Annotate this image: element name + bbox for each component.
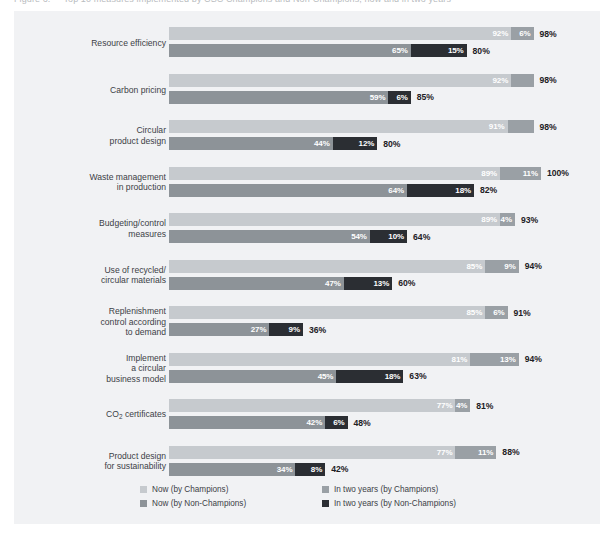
bar-total-label: 98% [534, 27, 557, 40]
segment-two-years-value: 6% [493, 308, 504, 317]
segment-two-years-value: 18% [385, 372, 401, 381]
segment-two-years: 12% [333, 137, 378, 150]
category-label: Circular product design [0, 126, 166, 147]
segment-two-years: 11% [455, 446, 496, 459]
segment-now-value: 54% [351, 232, 367, 241]
bar-total-label: 91% [508, 306, 531, 319]
segment-now: 45% [169, 370, 336, 383]
stacked-bar-champions: 81%13% [169, 353, 519, 366]
category-label: Resource efficiency [0, 38, 166, 49]
segment-two-years-value: 15% [448, 46, 464, 55]
legend-item-nonchampions-two-years: In two years (by Non-Champions) [322, 499, 474, 508]
bar-total-label: 100% [541, 167, 569, 180]
segment-now: 91% [169, 120, 508, 133]
bar-total-label: 94% [519, 260, 542, 273]
stacked-bar-non-champions: 34%8% [169, 463, 325, 476]
bar-row: Carbon pricing92%98%59%6%85% [14, 67, 600, 114]
segment-now: 92% [169, 74, 511, 87]
segment-now-value: 89% [481, 169, 497, 178]
bar-total-label: 60% [392, 277, 415, 290]
segment-two-years: 11% [500, 167, 541, 180]
segment-two-years-value: 10% [388, 232, 404, 241]
segment-two-years-value: 6% [519, 29, 530, 38]
segment-now: 27% [169, 323, 269, 336]
segment-now-value: 47% [325, 279, 341, 288]
segment-two-years-value: 13% [500, 355, 516, 364]
stacked-bar-non-champions: 44%12% [169, 137, 377, 150]
legend-swatch-icon [322, 500, 329, 507]
segment-two-years: 15% [411, 44, 467, 57]
segment-now-value: 65% [392, 46, 408, 55]
stacked-bar-champions: 77%4% [169, 399, 470, 412]
bar-row: Waste management in production89%11%100%… [14, 160, 600, 207]
segment-two-years: 6% [485, 306, 507, 319]
segment-two-years-value: 6% [396, 93, 407, 102]
segment-two-years: 4% [500, 213, 515, 226]
bar-row: Budgeting/control measures89%4%93%54%10%… [14, 206, 600, 253]
legend-label: Now (by Non-Champions) [152, 499, 246, 508]
legend-swatch-icon [322, 486, 329, 493]
stacked-bar-champions: 85%6% [169, 306, 508, 319]
bar-group: 92%98%59%6%85% [169, 67, 600, 114]
legend-label: Now (by Champions) [152, 485, 228, 494]
bar-group: 91%98%44%12%80% [169, 113, 600, 160]
bar-group: 77%4%81%42%6%48% [169, 392, 600, 439]
segment-two-years: 4% [455, 399, 470, 412]
segment-now: 89% [169, 213, 500, 226]
segment-now-value: 85% [466, 308, 482, 317]
segment-now: 77% [169, 399, 455, 412]
figure-number: Figure 6: [14, 0, 50, 4]
segment-now-value: 27% [251, 325, 267, 334]
bar-total-label: 80% [377, 137, 400, 150]
bar-total-label: 80% [467, 44, 490, 57]
bar-total-label: 98% [534, 74, 557, 87]
bar-total-label: 36% [303, 323, 326, 336]
segment-two-years-value: 11% [523, 169, 538, 178]
category-label: Budgeting/control measures [0, 219, 166, 240]
segment-two-years [508, 120, 534, 133]
segment-two-years: 10% [370, 230, 407, 243]
bar-row: Replenishment control according to deman… [14, 299, 600, 346]
stacked-bar-champions: 89%11% [169, 167, 541, 180]
stacked-bar-champions: 89%4% [169, 213, 515, 226]
chart-panel: Resource efficiency92%6%98%65%15%80%Carb… [14, 11, 600, 524]
segment-now: 34% [169, 463, 295, 476]
legend-swatch-icon [140, 486, 147, 493]
bar-group: 89%11%100%64%18%82% [169, 160, 600, 207]
stacked-bar-non-champions: 27%9% [169, 323, 303, 336]
segment-two-years-value: 6% [333, 418, 344, 427]
legend-label: In two years (by Champions) [334, 485, 438, 494]
segment-two-years: 9% [485, 260, 518, 273]
bar-group: 85%6%91%27%9%36% [169, 299, 600, 346]
segment-now: 64% [169, 184, 407, 197]
category-label: Waste management in production [0, 172, 166, 193]
bar-row: Implement a circular business model81%13… [14, 346, 600, 393]
category-label: Product design for sustainability [0, 451, 166, 472]
segment-now: 47% [169, 277, 344, 290]
segment-two-years: 9% [269, 323, 302, 336]
segment-two-years-value: 9% [504, 262, 515, 271]
stacked-bar-champions: 92%6% [169, 27, 534, 40]
stacked-bar-non-champions: 65%15% [169, 44, 467, 57]
segment-now-value: 85% [466, 262, 482, 271]
bar-group: 89%4%93%54%10%64% [169, 206, 600, 253]
bar-total-label: 82% [474, 184, 497, 197]
stacked-bar-champions: 85%9% [169, 260, 519, 273]
legend-item-nonchampions-now: Now (by Non-Champions) [140, 499, 292, 508]
segment-now-value: 91% [489, 122, 505, 131]
stacked-bar-champions: 77%11% [169, 446, 496, 459]
segment-now: 54% [169, 230, 370, 243]
segment-now: 65% [169, 44, 411, 57]
bar-total-label: 81% [470, 399, 493, 412]
bar-group: 81%13%94%45%18%63% [169, 346, 600, 393]
segment-now-value: 92% [493, 29, 509, 38]
segment-now: 89% [169, 167, 500, 180]
chart-legend: Now (by Champions)In two years (by Champ… [14, 485, 600, 508]
bar-total-label: 64% [407, 230, 430, 243]
segment-now: 85% [169, 306, 485, 319]
category-label: Implement a circular business model [0, 353, 166, 385]
bar-rows: Resource efficiency92%6%98%65%15%80%Carb… [14, 20, 600, 485]
bar-total-label: 63% [403, 370, 426, 383]
stacked-bar-non-champions: 64%18% [169, 184, 474, 197]
segment-two-years: 18% [336, 370, 403, 383]
